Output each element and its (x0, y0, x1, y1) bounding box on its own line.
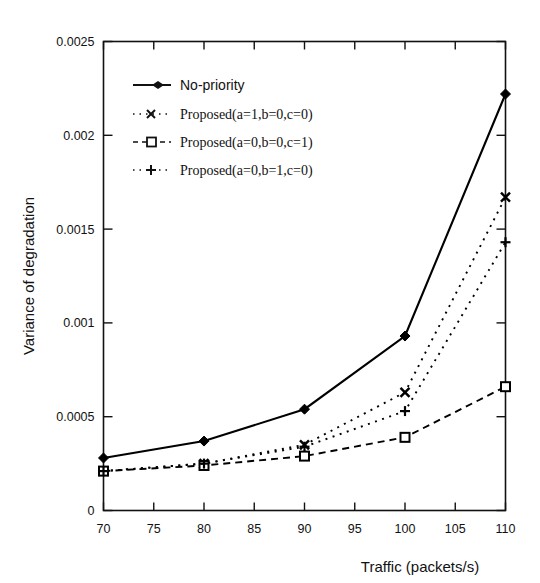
y-tick-label: 0.0005 (56, 410, 94, 424)
x-tick-label: 100 (395, 522, 416, 536)
y-tick-labels: 00.00050.0010.00150.0020.0025 (56, 35, 94, 518)
legend-item-proposed-a0-b1-c0[interactable]: Proposed(a=0,b=1,c=0) (133, 163, 313, 179)
figure-container: 00.00050.0010.00150.0020.0025 7075808590… (0, 0, 540, 583)
point-marker-open-square (501, 382, 510, 391)
x-axis-title: Traffic (packets/s) (361, 558, 479, 575)
x-tick-labels: 707580859095100105110 (97, 522, 516, 536)
y-tick-label: 0.0025 (56, 35, 94, 49)
y-tick-label: 0.0015 (56, 223, 94, 237)
series-proposed-a-0-b-1-c-0- (99, 237, 511, 476)
series-proposed-a-0-b-0-c-1- (99, 382, 510, 475)
point-marker-open-square (300, 452, 309, 461)
x-tick-label: 85 (247, 522, 261, 536)
legend-item-proposed-a1-b0-c0[interactable]: Proposed(a=1,b=0,c=0) (133, 107, 313, 123)
point-marker-plus (400, 406, 410, 416)
x-tick-label: 90 (298, 522, 312, 536)
filled-diamond-icon (152, 81, 164, 89)
x-tick-label: 80 (197, 522, 211, 536)
plus-icon (146, 165, 156, 175)
legend-item-no-priority[interactable]: No-priority (133, 77, 245, 93)
point-marker-plus (501, 237, 511, 247)
open-square-icon (147, 138, 156, 147)
legend-label: Proposed(a=0,b=0,c=1) (180, 135, 313, 151)
legend-item-proposed-a0-b0-c1[interactable]: Proposed(a=0,b=0,c=1) (133, 135, 313, 151)
legend-label: No-priority (180, 77, 245, 93)
point-marker-filled-diamond (99, 453, 109, 463)
point-marker-cross-x (401, 388, 410, 397)
x-tick-label: 95 (348, 522, 362, 536)
point-marker-filled-diamond (501, 89, 511, 99)
point-marker-filled-diamond (199, 436, 209, 446)
x-tick-label: 75 (147, 522, 161, 536)
y-tick-label: 0 (88, 504, 95, 518)
legend-label: Proposed(a=0,b=1,c=0) (180, 163, 313, 179)
x-tick-label: 105 (445, 522, 466, 536)
y-axis-title: Variance of degradation (20, 197, 37, 355)
variance-of-degradation-line-chart: 00.00050.0010.00150.0020.0025 7075808590… (0, 0, 540, 583)
y-tick-label: 0.002 (63, 129, 94, 143)
x-tick-label: 110 (496, 522, 516, 536)
point-marker-plus (300, 442, 310, 452)
x-tick-label: 70 (97, 522, 111, 536)
legend-label: Proposed(a=1,b=0,c=0) (180, 107, 313, 123)
series-proposed-a-1-b-0-c-0- (99, 193, 510, 476)
legend: No-priority Proposed(a=1,b=0,c=0) Propos… (133, 77, 313, 179)
point-marker-open-square (401, 433, 410, 442)
y-tick-label: 0.001 (63, 316, 94, 330)
